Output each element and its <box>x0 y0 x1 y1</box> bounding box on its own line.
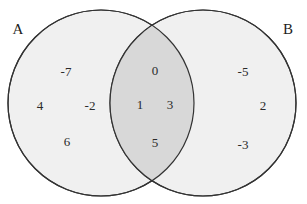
set-label-b: B <box>283 22 293 37</box>
intersection-element: 1 <box>137 98 144 111</box>
intersection-element: 5 <box>152 136 159 149</box>
intersection-element: 3 <box>167 98 174 111</box>
a-only-element: 4 <box>37 99 44 112</box>
venn-diagram: A B -74-26 0135 -52-3 <box>0 0 307 204</box>
a-only-element: -7 <box>61 65 72 78</box>
b-only-element: -5 <box>238 65 249 78</box>
intersection-element: 0 <box>152 64 159 77</box>
a-only-element: -2 <box>85 99 96 112</box>
b-only-element: -3 <box>238 138 249 151</box>
b-only-element: 2 <box>260 99 267 112</box>
set-label-a: A <box>13 22 24 37</box>
a-only-element: 6 <box>64 135 71 148</box>
